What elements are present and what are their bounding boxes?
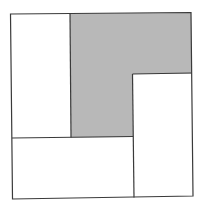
diagram-canvas [0,0,202,208]
divider-bottom-horizontal [12,137,133,139]
shaded-l-region [70,13,192,138]
divider-right-vertical [133,74,135,198]
